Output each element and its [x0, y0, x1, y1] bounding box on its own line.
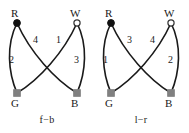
figure-root: R W G B 4 1 2 3 f−b R W G B 3 [0, 0, 189, 133]
node-marker-w [168, 20, 174, 26]
node-label-b: B [71, 98, 78, 109]
edge-label-r-b: 3 [127, 35, 132, 45]
edge-label-r-g: 1 [103, 55, 108, 65]
node-label-g: G [105, 98, 113, 109]
node-label-w: W [70, 8, 80, 19]
node-marker-b [74, 90, 81, 97]
node-label-r: R [105, 8, 112, 19]
node-label-r: R [11, 8, 18, 19]
node-label-w: W [164, 8, 174, 19]
edge-label-r-g: 2 [9, 55, 14, 65]
panel-caption-l-r: l−r [94, 114, 188, 125]
node-label-b: B [165, 98, 172, 109]
node-marker-g [14, 90, 21, 97]
edge-label-w-b: 3 [74, 55, 79, 65]
edge-r-b [111, 23, 171, 93]
graph-panel-f-b: R W G B 4 1 2 3 f−b [0, 0, 94, 133]
panel-caption-f-b: f−b [0, 114, 94, 125]
graph-panel-l-r: R W G B 3 4 1 2 l−r [94, 0, 188, 133]
edge-w-g [17, 23, 77, 93]
node-label-g: G [11, 98, 19, 109]
node-marker-g [108, 90, 115, 97]
node-marker-r [14, 20, 21, 27]
node-marker-b [168, 90, 175, 97]
edge-label-r-b: 4 [33, 35, 38, 45]
edge-label-w-b: 2 [168, 55, 173, 65]
edge-label-w-g: 1 [56, 35, 61, 45]
edge-w-g [111, 23, 171, 93]
node-marker-w [74, 20, 80, 26]
edge-r-b [17, 23, 77, 93]
node-marker-r [108, 20, 115, 27]
edge-label-w-g: 4 [150, 35, 155, 45]
